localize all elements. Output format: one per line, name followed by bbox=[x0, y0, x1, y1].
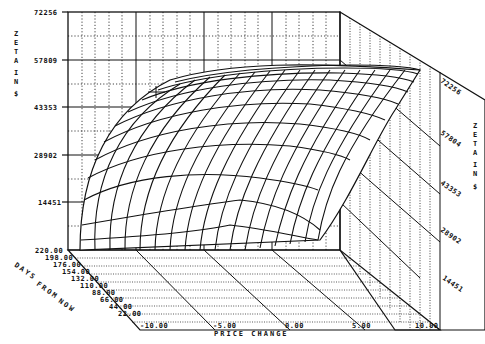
y-tick-label: 22.00 bbox=[118, 310, 142, 318]
svg-text:DAYS: DAYS bbox=[13, 261, 38, 282]
z-tick-label-right: 43353 bbox=[439, 179, 463, 199]
z-tick-label: 72256 bbox=[34, 9, 58, 17]
z-tick-label: 57809 bbox=[34, 57, 58, 65]
floor bbox=[68, 250, 440, 330]
z-tick-label-right: 72256 bbox=[439, 77, 463, 97]
z-tick-label-right: 14451 bbox=[441, 274, 465, 294]
x-tick-label: 0.00 bbox=[285, 322, 304, 330]
z-axis-right-labels: 72256 57804 43353 28902 14451 bbox=[439, 77, 465, 294]
x-axis-title: PRICE CHANGE bbox=[214, 330, 289, 338]
z-tick-label: 43353 bbox=[34, 104, 58, 112]
svg-text:A: A bbox=[473, 149, 478, 157]
z-tick-label-right: 28902 bbox=[439, 226, 463, 246]
svg-text:I: I bbox=[14, 69, 19, 77]
z-tick-label: 28902 bbox=[34, 152, 58, 160]
svg-text:Z: Z bbox=[14, 30, 19, 38]
svg-text:T: T bbox=[14, 48, 19, 56]
svg-text:E: E bbox=[14, 39, 19, 47]
svg-text:FROM: FROM bbox=[35, 280, 60, 301]
svg-text:$: $ bbox=[473, 183, 478, 191]
z-tick-label: 14451 bbox=[38, 199, 62, 207]
z-axis-left-title: Z E T A I N $ bbox=[14, 30, 19, 98]
svg-text:N: N bbox=[473, 170, 478, 178]
svg-text:E: E bbox=[473, 131, 478, 139]
svg-text:Z: Z bbox=[473, 122, 478, 130]
z-tick-label-right: 57804 bbox=[439, 129, 463, 149]
svg-text:A: A bbox=[14, 57, 19, 65]
svg-text:I: I bbox=[473, 161, 478, 169]
svg-text:NOW: NOW bbox=[57, 297, 77, 314]
x-tick-label: 5.00 bbox=[352, 322, 371, 330]
svg-text:T: T bbox=[473, 140, 478, 148]
svg-text:N: N bbox=[14, 78, 19, 86]
svg-text:$: $ bbox=[14, 90, 19, 98]
surface-mesh bbox=[80, 65, 420, 250]
x-tick-label: -10.00 bbox=[140, 322, 168, 330]
x-tick-label: 10.00 bbox=[415, 322, 439, 330]
x-tick-label: -5.00 bbox=[213, 322, 237, 330]
z-axis-right-title: Z E T A I N $ bbox=[473, 122, 478, 191]
z-axis-left-labels: 72256 57809 43353 28902 14451 bbox=[34, 9, 62, 207]
surface-plot: 72256 57809 43353 28902 14451 Z E T A I … bbox=[0, 0, 485, 344]
